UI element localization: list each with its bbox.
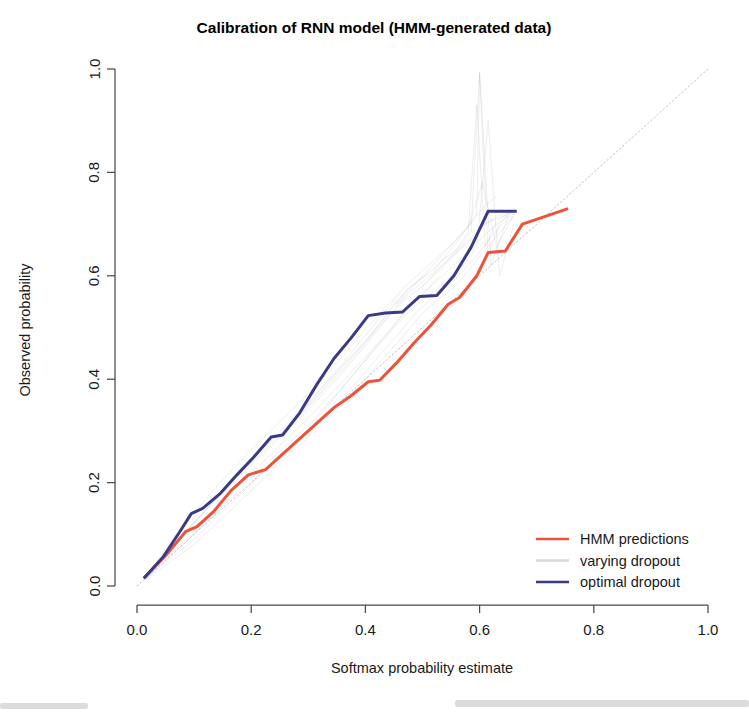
- y-axis-title: Observed probability: [17, 263, 33, 397]
- legend-label-1: varying dropout: [580, 553, 680, 569]
- x-tick-label: 1.0: [698, 621, 719, 638]
- y-tick-label: 1.0: [86, 59, 103, 80]
- x-tick-label: 0.0: [127, 621, 148, 638]
- chart-title: Calibration of RNN model (HMM-generated …: [197, 19, 552, 36]
- calibration-chart-figure: Calibration of RNN model (HMM-generated …: [0, 0, 749, 716]
- x-tick-label: 0.6: [469, 621, 490, 638]
- x-tick-label: 0.4: [355, 621, 376, 638]
- legend-label-0: HMM predictions: [580, 531, 689, 547]
- legend: HMM predictionsvarying dropoutoptimal dr…: [536, 531, 689, 590]
- page-edge-artifact-right: [455, 700, 749, 707]
- x-axis-title: Softmax probability estimate: [331, 660, 513, 676]
- y-tick-label: 0.6: [86, 265, 103, 286]
- page-edge-artifact-left: [0, 703, 88, 709]
- x-tick-label: 0.2: [241, 621, 262, 638]
- legend-label-2: optimal dropout: [580, 574, 680, 590]
- y-tick-label: 0.0: [86, 576, 103, 597]
- y-tick-label: 0.2: [86, 472, 103, 493]
- y-tick-label: 0.8: [86, 162, 103, 183]
- x-tick-label: 0.8: [583, 621, 604, 638]
- figure-background: [0, 0, 749, 716]
- y-tick-label: 0.4: [86, 369, 103, 390]
